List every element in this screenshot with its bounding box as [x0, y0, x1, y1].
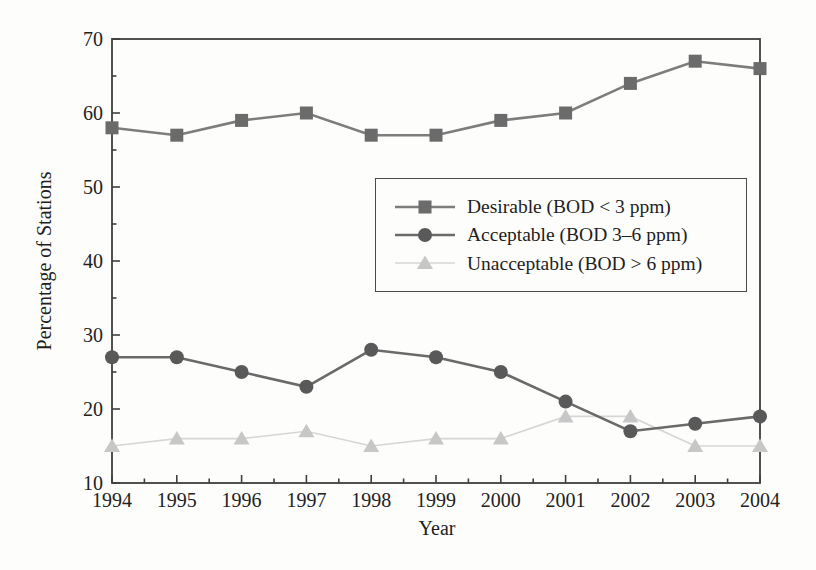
data-point-1998: [364, 343, 378, 357]
legend-label-acceptable: Acceptable (BOD 3–6 ppm): [467, 224, 687, 245]
legend-marker-square-icon: [394, 197, 456, 217]
data-point-2001: [559, 395, 573, 409]
x-tick-label: 1995: [157, 489, 197, 511]
x-tick-label: 1996: [222, 489, 262, 511]
y-tick-label: 20: [83, 398, 103, 420]
legend-marker-circle-icon: [394, 225, 456, 245]
x-tick-label: 1994: [92, 489, 132, 511]
x-tick-label: 2001: [546, 489, 586, 511]
y-tick-label: 50: [83, 176, 103, 198]
data-point-2003: [689, 55, 702, 68]
series-square: [106, 55, 767, 142]
bod-trend-figure: 1020304050607019941995199619971998199920…: [0, 0, 816, 570]
x-tick-label: 1999: [416, 489, 456, 511]
legend-item-acceptable: Acceptable (BOD 3–6 ppm): [394, 224, 746, 245]
legend-item-desirable: Desirable (BOD < 3 ppm): [394, 196, 746, 217]
data-point-1997: [300, 107, 313, 120]
data-point-1994: [106, 121, 119, 134]
series-line: [112, 61, 760, 135]
x-tick-label: 1998: [351, 489, 391, 511]
data-point-1997: [299, 380, 313, 394]
y-tick-label: 40: [83, 250, 103, 272]
legend: Desirable (BOD < 3 ppm) Acceptable (BOD …: [375, 178, 747, 292]
y-tick-label: 60: [83, 102, 103, 124]
data-point-1998: [365, 129, 378, 142]
data-point-2002: [623, 424, 637, 438]
data-point-1995: [170, 350, 184, 364]
legend-marker-triangle-icon: [394, 253, 456, 273]
data-point-2001: [559, 107, 572, 120]
x-tick-label: 2000: [481, 489, 521, 511]
x-tick-label: 2003: [675, 489, 715, 511]
x-axis-title: Year: [419, 517, 456, 540]
series-circle: [105, 343, 767, 438]
data-point-1996: [235, 365, 249, 379]
x-tick-label: 1997: [286, 489, 326, 511]
square-glyph: [419, 200, 432, 213]
y-tick-label: 30: [83, 324, 103, 346]
data-point-2004: [753, 409, 767, 423]
data-point-1997: [298, 424, 314, 438]
data-point-2004: [754, 62, 767, 75]
data-point-1994: [105, 350, 119, 364]
data-point-2000: [494, 365, 508, 379]
x-tick-label: 2002: [610, 489, 650, 511]
circle-glyph: [418, 228, 432, 242]
y-tick-label: 70: [83, 28, 103, 50]
legend-item-unacceptable: Unacceptable (BOD > 6 ppm): [394, 253, 746, 274]
legend-label-unacceptable: Unacceptable (BOD > 6 ppm): [467, 253, 702, 274]
x-tick-label: 2004: [740, 489, 780, 511]
data-point-2002: [624, 77, 637, 90]
data-point-1999: [430, 129, 443, 142]
series-triangle: [104, 409, 768, 452]
data-point-1995: [170, 129, 183, 142]
data-point-2000: [494, 114, 507, 127]
data-point-1999: [429, 350, 443, 364]
legend-label-desirable: Desirable (BOD < 3 ppm): [467, 196, 671, 217]
y-axis-title: Percentage of Stations: [33, 172, 56, 351]
data-point-2003: [688, 417, 702, 431]
data-point-1996: [235, 114, 248, 127]
